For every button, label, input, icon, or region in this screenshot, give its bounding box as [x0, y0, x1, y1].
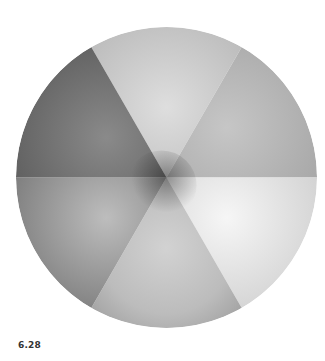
figure-caption: 6.28 — [18, 340, 41, 350]
segmented-disc-figure — [16, 27, 317, 328]
center-shadow — [126, 150, 196, 220]
